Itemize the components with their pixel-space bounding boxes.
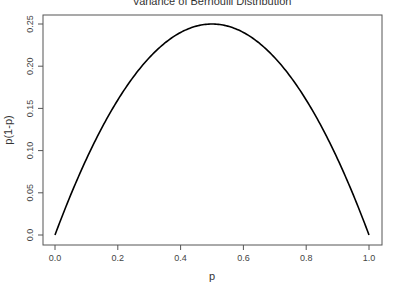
chart-title: Variance of Bernoulli Distribution [133, 0, 292, 7]
y-axis-label: p(1-p) [2, 115, 14, 144]
variance-curve [55, 24, 369, 235]
x-tick-label: 0.2 [112, 253, 125, 263]
y-axis: 0.00.050.100.150.200.25 [25, 15, 43, 241]
x-tick-label: 0.4 [174, 253, 187, 263]
y-tick-label: 0.20 [25, 57, 35, 75]
y-tick-label: 0.15 [25, 100, 35, 118]
x-axis: 0.00.20.40.60.81.0 [49, 245, 376, 263]
x-tick-label: 0.0 [49, 253, 62, 263]
y-tick-label: 0.05 [25, 184, 35, 202]
x-tick-label: 0.8 [300, 253, 313, 263]
x-axis-label: p [209, 270, 215, 282]
bernoulli-variance-chart: Variance of Bernoulli Distribution 0.00.… [0, 0, 393, 291]
x-tick-label: 0.6 [237, 253, 250, 263]
y-tick-label: 0.0 [25, 229, 35, 242]
y-tick-label: 0.25 [25, 15, 35, 33]
plot-frame [43, 15, 382, 245]
y-tick-label: 0.10 [25, 142, 35, 160]
x-tick-label: 1.0 [363, 253, 376, 263]
